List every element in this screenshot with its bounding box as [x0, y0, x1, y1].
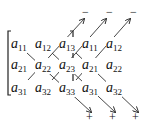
ext-a21: a21: [82, 58, 98, 74]
plus-sign-1: +: [86, 111, 93, 123]
minus-sign-3: −: [130, 6, 137, 18]
matrix-a22: a22: [35, 58, 51, 74]
matrix-a21: a21: [11, 58, 27, 74]
matrix-a13: a13: [59, 37, 75, 53]
matrix-a12: a12: [35, 37, 51, 53]
matrix-a32: a32: [35, 81, 51, 97]
ext-a12: a12: [106, 37, 122, 53]
minus-sign-2: −: [106, 6, 113, 18]
plus-sign-3: +: [132, 111, 139, 123]
sarrus-diagram: a11 a12 a13 a21 a22 a23 a31 a32 a33 a11 …: [0, 0, 147, 125]
matrix-a31: a31: [11, 81, 27, 97]
matrix-a33: a33: [59, 81, 75, 97]
ext-a32: a32: [106, 81, 122, 97]
ext-a22: a22: [106, 58, 122, 74]
ext-a31: a31: [82, 81, 98, 97]
matrix-a11: a11: [11, 37, 27, 53]
ext-a11: a11: [82, 37, 98, 53]
plus-sign-2: +: [109, 111, 116, 123]
matrix-a23: a23: [59, 58, 75, 74]
minus-sign-1: −: [82, 6, 89, 18]
